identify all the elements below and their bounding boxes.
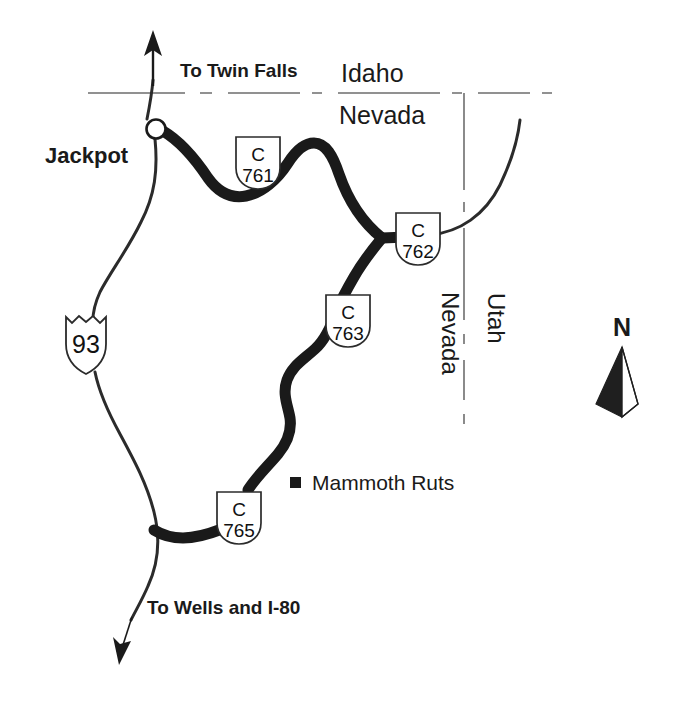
c763-shield-prefix: C <box>341 302 355 323</box>
shield-c765[interactable]: C 765 <box>217 492 261 544</box>
us93-shield-number: 93 <box>72 330 100 358</box>
label-jackpot: Jackpot <box>45 143 129 168</box>
shield-c762[interactable]: C 762 <box>396 213 440 265</box>
label-idaho: Idaho <box>341 59 404 87</box>
label-utah: Utah <box>483 293 510 344</box>
c761-shield-prefix: C <box>251 144 265 165</box>
label-to-wells-i80: To Wells and I-80 <box>147 597 300 618</box>
label-nevada-east: Nevada <box>437 292 464 375</box>
label-to-twin-falls: To Twin Falls <box>180 60 298 81</box>
c762-shield-number: 762 <box>402 241 434 262</box>
mammoth-ruts-site-marker <box>290 477 301 488</box>
map-canvas: 93 C 761 C 762 C 763 C 765 To Twin Falls… <box>0 0 674 704</box>
label-mammoth-ruts: Mammoth Ruts <box>312 471 454 494</box>
map-root: 93 C 761 C 762 C 763 C 765 To Twin Falls… <box>0 0 674 704</box>
c761-shield-number: 761 <box>242 165 274 186</box>
shield-c763[interactable]: C 763 <box>326 295 370 347</box>
c765-shield-prefix: C <box>232 499 246 520</box>
shield-c761[interactable]: C 761 <box>236 137 280 189</box>
c763-shield-number: 763 <box>332 323 364 344</box>
c765-shield-number: 765 <box>223 520 255 541</box>
c762-shield-prefix: C <box>411 220 425 241</box>
label-nevada-north: Nevada <box>339 101 425 129</box>
jackpot-town-marker <box>147 120 166 139</box>
label-north: N <box>613 313 631 341</box>
